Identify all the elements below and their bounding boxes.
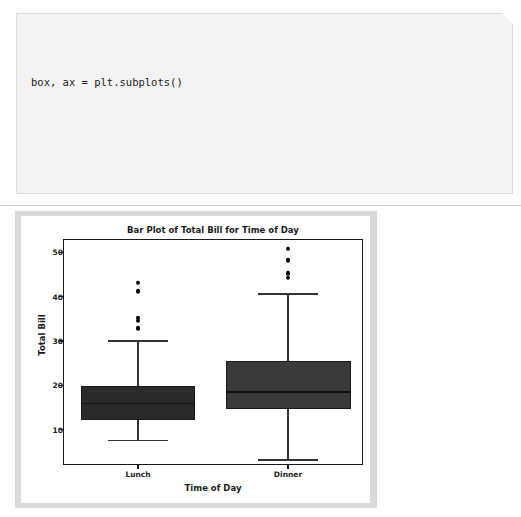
x-tick-mark <box>137 465 138 469</box>
boxplot-outlier-point <box>136 281 140 286</box>
code-block: box, ax = plt.subplots() sns.boxplot(dat… <box>16 13 513 194</box>
whisker-cap-upper <box>108 340 168 341</box>
whisker-cap-upper <box>258 293 318 294</box>
y-axis-ticks: 1020304050 <box>37 0 63 517</box>
boxplot-median-line <box>226 391 351 393</box>
y-tick-mark <box>59 296 63 297</box>
whisker-stem-upper <box>137 341 138 386</box>
x-tick-label: Lunch <box>98 470 178 479</box>
code-line-blank <box>31 137 504 159</box>
section-divider <box>0 205 521 206</box>
whisker-cap-lower <box>108 440 168 441</box>
boxplot-outlier-point <box>136 316 140 321</box>
code-line: box, ax = plt.subplots() <box>31 71 504 93</box>
whisker-stem-upper <box>287 294 288 361</box>
boxplot-box <box>226 361 351 409</box>
whisker-stem-lower <box>287 409 288 460</box>
y-tick-mark <box>59 385 63 386</box>
boxplot-outlier-point <box>286 271 290 276</box>
chart-title: Bar Plot of Total Bill for Time of Day <box>63 225 363 235</box>
boxplot-outlier-point <box>136 326 140 331</box>
whisker-cap-lower <box>258 459 318 460</box>
x-tick-label: Dinner <box>248 470 328 479</box>
boxplot-outlier-point <box>286 246 290 251</box>
x-tick-mark <box>287 465 288 469</box>
whisker-stem-lower <box>137 420 138 441</box>
y-tick-mark <box>59 340 63 341</box>
x-axis-label: Time of Day <box>63 483 363 493</box>
boxplot-outlier-point <box>136 289 140 294</box>
y-tick-mark <box>59 252 63 253</box>
boxplot-outlier-point <box>286 258 290 263</box>
plot-axes <box>63 239 363 465</box>
boxplot-median-line <box>81 403 195 405</box>
boxplot-outlier-point <box>286 275 290 280</box>
y-tick-mark <box>59 429 63 430</box>
